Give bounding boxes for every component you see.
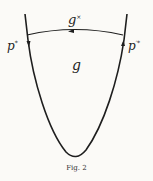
u-curve [25,14,127,157]
top-arc [27,30,123,36]
label-left: p* [7,40,18,52]
diagram-canvas [0,0,153,181]
label-interior: g [72,58,81,72]
label-top-arc: g× [68,13,81,26]
figure-caption: Fig. 2 [0,164,153,172]
label-right: p′* [128,40,140,52]
